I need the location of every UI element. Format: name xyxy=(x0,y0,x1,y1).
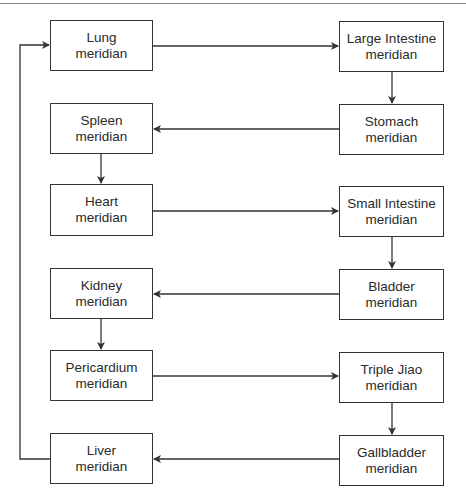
node-label-line2: meridian xyxy=(366,378,418,394)
node-large-intestine-meridian: Large Intestine meridian xyxy=(339,21,444,72)
connector-layer xyxy=(0,0,466,502)
node-triple-jiao-meridian: Triple Jiao meridian xyxy=(339,352,444,403)
node-label-line1: Small Intestine xyxy=(347,196,436,212)
node-kidney-meridian: Kidney meridian xyxy=(50,268,153,319)
node-label-line2: meridian xyxy=(366,130,418,146)
node-label-line1: Triple Jiao xyxy=(361,362,423,378)
node-label-line1: Kidney xyxy=(81,278,122,294)
node-heart-meridian: Heart meridian xyxy=(50,184,153,236)
node-label-line1: Heart xyxy=(85,194,118,210)
node-bladder-meridian: Bladder meridian xyxy=(339,269,444,320)
node-lung-meridian: Lung meridian xyxy=(50,20,153,71)
node-small-intestine-meridian: Small Intestine meridian xyxy=(339,186,444,237)
edge-liver-to-lung xyxy=(20,45,50,459)
node-label-line1: Large Intestine xyxy=(347,31,436,47)
node-label-line1: Bladder xyxy=(368,279,415,295)
node-label-line1: Spleen xyxy=(80,113,122,129)
node-label-line2: meridian xyxy=(76,459,128,475)
node-label-line2: meridian xyxy=(76,210,128,226)
node-label-line2: meridian xyxy=(366,47,418,63)
node-label-line2: meridian xyxy=(366,212,418,228)
node-label-line1: Liver xyxy=(87,443,116,459)
node-label-line2: meridian xyxy=(366,461,418,477)
node-liver-meridian: Liver meridian xyxy=(50,433,153,484)
node-label-line2: meridian xyxy=(76,46,128,62)
node-label-line1: Gallbladder xyxy=(357,445,426,461)
node-stomach-meridian: Stomach meridian xyxy=(339,104,444,155)
node-label-line2: meridian xyxy=(76,129,128,145)
node-spleen-meridian: Spleen meridian xyxy=(50,103,153,154)
node-label-line1: Lung xyxy=(86,30,116,46)
node-label-line1: Stomach xyxy=(365,114,418,130)
node-label-line2: meridian xyxy=(76,376,128,392)
node-pericardium-meridian: Pericardium meridian xyxy=(50,350,153,401)
node-label-line2: meridian xyxy=(366,295,418,311)
node-gallbladder-meridian: Gallbladder meridian xyxy=(339,435,444,486)
node-label-line2: meridian xyxy=(76,294,128,310)
node-label-line1: Pericardium xyxy=(65,360,137,376)
